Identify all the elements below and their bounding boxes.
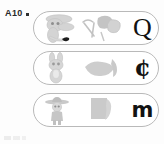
- letter-glyph-row-3: m: [132, 100, 154, 121]
- scan-edge-artifact: [4, 136, 26, 140]
- cartoon-person-with-hat-icon: [40, 94, 82, 126]
- letter-cell-row-3: m: [127, 94, 158, 126]
- object-cell-row-2: [81, 52, 127, 84]
- cartoon-rabbit-figure-icon: [40, 52, 82, 84]
- letter-glyph-row-1: Q: [133, 15, 152, 41]
- gray-rectangle-shape-icon: [81, 94, 127, 126]
- worksheet-page: A10: [0, 0, 164, 144]
- figure-cell-row-2: [40, 52, 82, 84]
- figure-cell-row-1: [40, 12, 82, 44]
- answer-capsule-row-2[interactable]: ¢: [33, 51, 159, 85]
- tools-and-block-shapes-icon: [81, 12, 127, 44]
- object-cell-row-3: [81, 94, 127, 126]
- figure-cell-row-3: [40, 94, 82, 126]
- letter-glyph-row-2: ¢: [134, 56, 151, 80]
- item-number-label: A10: [5, 8, 23, 19]
- cartoon-animal-figure-icon: [40, 12, 82, 44]
- square-bullet-icon: [26, 13, 29, 16]
- gray-blob-and-leaf-shape-icon: [81, 52, 127, 84]
- object-cell-row-1: [81, 12, 127, 44]
- letter-cell-row-2: ¢: [127, 52, 158, 84]
- answer-capsule-row-1[interactable]: Q: [33, 11, 159, 45]
- letter-cell-row-1: Q: [127, 12, 158, 44]
- answer-capsule-row-3[interactable]: m: [33, 93, 159, 127]
